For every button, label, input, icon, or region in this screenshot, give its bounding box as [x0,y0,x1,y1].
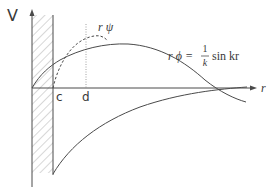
r-axis-arrow-icon [250,86,257,91]
hard-core-wall [32,15,53,173]
d-marker-label: d [82,90,90,104]
free-curve-equation: r ϕ = 1 k sin kr [168,43,239,68]
r-axis-label: r [261,81,266,95]
equation-lhs: r ϕ = [168,49,193,63]
wavefunction-diagram: V r c d r ψ r ϕ = 1 k sin kr [0,0,280,193]
v-axis-label: V [7,6,18,25]
interacting-wavefunction-curve [53,36,108,88]
interacting-curve-label: r ψ [98,20,114,34]
c-marker-label: c [56,90,63,104]
v-axis-arrow-icon [30,9,35,16]
equation-denominator: k [203,57,208,68]
equation-rhs: sin kr [212,49,239,63]
equation-numerator: 1 [203,43,208,54]
